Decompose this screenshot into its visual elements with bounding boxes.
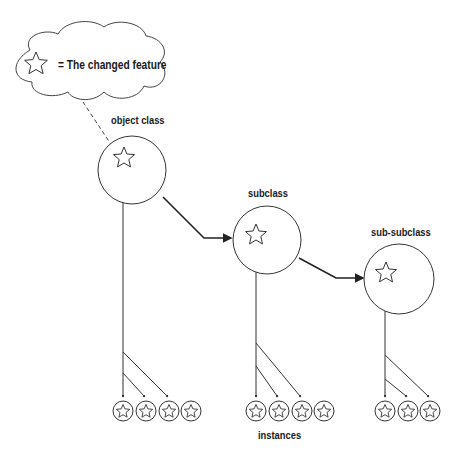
instance xyxy=(181,401,201,421)
instance xyxy=(113,401,133,421)
subclass-label: subclass xyxy=(248,187,288,199)
sub-subclass-node xyxy=(364,244,440,421)
instances-label: instances xyxy=(258,429,301,441)
class-inheritance-diagram: = The changed feature object class subcl… xyxy=(0,0,462,458)
inheritance-arrow-2 xyxy=(299,258,363,278)
inheritance-arrow-1 xyxy=(163,197,231,238)
instance xyxy=(136,401,156,421)
instance xyxy=(375,401,395,421)
instance-connector xyxy=(256,366,277,396)
instance xyxy=(246,401,266,421)
sub-subclass-label: sub-subclass xyxy=(371,226,431,238)
legend-text: = The changed feature xyxy=(58,58,167,72)
instance xyxy=(292,401,312,421)
instance xyxy=(314,401,334,421)
object-class-circle xyxy=(98,136,166,204)
subclass-node xyxy=(233,206,334,421)
instance-connector xyxy=(385,379,406,396)
subclass-circle xyxy=(233,206,301,274)
instance xyxy=(269,401,289,421)
object-class-label: object class xyxy=(111,114,165,126)
instance-connector xyxy=(123,352,167,396)
instance-connector xyxy=(123,373,144,396)
instance-connector xyxy=(385,355,428,396)
instance-connector xyxy=(256,343,300,396)
object-class-node xyxy=(98,136,201,421)
instance xyxy=(420,401,440,421)
instance xyxy=(159,401,179,421)
sub-subclass-circle xyxy=(364,244,434,314)
instance xyxy=(398,401,418,421)
